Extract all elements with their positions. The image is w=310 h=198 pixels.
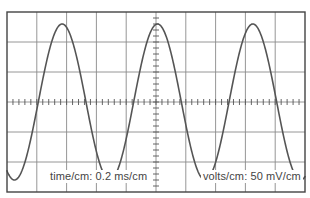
oscilloscope-display [0, 0, 310, 198]
time-scale-label: time/cm: 0.2 ms/cm [48, 170, 149, 183]
volts-scale-label: volts/cm: 50 mV/cm [201, 170, 303, 183]
